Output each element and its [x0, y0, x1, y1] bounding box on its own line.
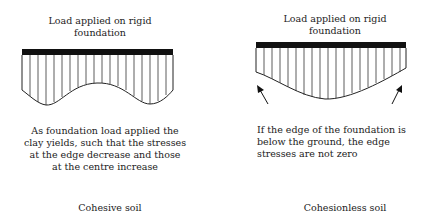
cohesive-stress-diagram — [22, 49, 173, 105]
edge-stress-arrow-right — [392, 85, 402, 104]
left-title-line-2: foundation — [30, 27, 170, 39]
left-desc-line-4: at the centre increase — [20, 161, 190, 173]
right-desc-line-2: below the ground, the edge — [257, 136, 427, 148]
cohesionless-stress-diagram — [256, 42, 406, 104]
right-description: If the edge of the foundation is below t… — [257, 124, 427, 160]
rigid-foundation-bar-right — [256, 42, 406, 48]
edge-stress-arrow-left — [257, 85, 268, 104]
left-desc-line-2: clay yields, such that the stresses — [20, 137, 190, 149]
rigid-foundation-bar-left — [22, 49, 173, 55]
left-title-line-1: Load applied on rigid — [30, 15, 170, 27]
left-desc-line-3: at the edge decrease and those — [20, 149, 190, 161]
left-desc-line-1: As foundation load applied the — [20, 125, 190, 137]
stress-hatching-right — [264, 48, 400, 99]
right-desc-line-1: If the edge of the foundation is — [257, 124, 427, 136]
right-soil-label: Cohesionless soil — [275, 202, 415, 214]
right-title-line-2: foundation — [265, 25, 405, 37]
left-description: As foundation load applied the clay yiel… — [20, 125, 190, 173]
right-title: Load applied on rigid foundation — [265, 13, 405, 37]
stress-outline-right — [256, 48, 406, 99]
right-title-line-1: Load applied on rigid — [265, 13, 405, 25]
left-title: Load applied on rigid foundation — [30, 15, 170, 39]
right-desc-line-3: stresses are not zero — [257, 148, 427, 160]
stress-hatching-left — [30, 55, 166, 105]
left-soil-label: Cohesive soil — [40, 202, 180, 214]
